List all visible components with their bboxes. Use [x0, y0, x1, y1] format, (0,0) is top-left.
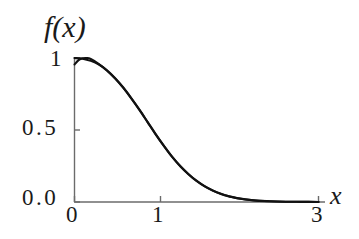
x-tick-label-3: 3: [311, 203, 323, 226]
curve-2: [75, 58, 319, 202]
y-tick-label-1: 1: [50, 47, 62, 70]
function-plot-figure: f(x) x 1 0.5 0.0 0 1 3: [0, 0, 359, 239]
x-tick-label-1: 1: [152, 203, 164, 226]
y-tick-label-0-5: 0.5: [22, 116, 58, 139]
x-tick-label-0: 0: [66, 203, 78, 226]
x-axis-label: x: [330, 183, 342, 209]
y-tick-label-0-0: 0.0: [22, 186, 58, 209]
y-axis-label: f(x): [44, 12, 86, 42]
